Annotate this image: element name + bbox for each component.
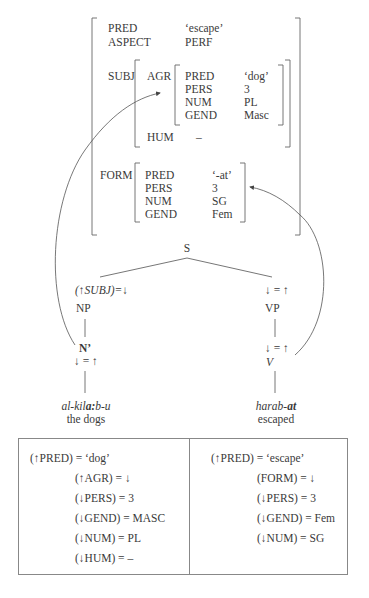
noun-word: al-kila:b-u (61, 400, 110, 413)
fs-form-gend-attr: GEND (145, 208, 177, 221)
fs-hum-attr: HUM (147, 131, 174, 144)
fs-agr-pers-value: 3 (244, 83, 250, 96)
vp-annotation: ↓ = ↑ (265, 284, 289, 297)
tree-node-vp: VP (265, 302, 280, 315)
fs-agr-pred-value: ‘dog’ (244, 70, 269, 83)
fs-agr-num-attr: NUM (185, 96, 212, 109)
noun-equation: (↓NUM) = PL (75, 532, 141, 545)
verb-equation: (↓GEND) = Fem (257, 512, 335, 525)
tree-root-s: S (184, 242, 190, 255)
fs-subj-attr: SUBJ (108, 70, 135, 83)
noun-equation: (↓PERS) = 3 (75, 492, 134, 505)
agr-left-bracket (175, 65, 180, 125)
form-left-bracket (135, 163, 140, 222)
verb-word-bold-suffix: at (287, 400, 296, 412)
subj-right-bracket (285, 60, 290, 147)
fs-agr-attr: AGR (147, 70, 171, 83)
verb-word: harab-at (256, 400, 296, 413)
fs-agr-pers-attr: PERS (185, 83, 213, 96)
fs-aspect-attr: ASPECT (108, 36, 151, 49)
noun-equation: (↓GEND) = MASC (75, 512, 165, 525)
nbar-annotation: ↓ = ↑ (74, 355, 98, 368)
fs-pred-attr: PRED (108, 22, 137, 35)
verb-head-equation: (↑PRED) = ‘escape’ (211, 452, 304, 465)
noun-equation: (↑AGR) = ↓ (75, 472, 131, 485)
verb-equation: (↓PERS) = 3 (257, 492, 316, 505)
fs-agr-gend-attr: GEND (185, 109, 217, 122)
tree-node-np: NP (76, 302, 91, 315)
verb-gloss: escaped (258, 413, 294, 426)
noun-head-equation: (↑PRED) = ‘dog’ (30, 452, 110, 465)
subj-left-bracket (135, 60, 140, 147)
fs-form-pers-value: 3 (212, 182, 218, 195)
fs-hum-value: – (196, 131, 202, 144)
fs-agr-pred-attr: PRED (185, 70, 214, 83)
outer-right-bracket (295, 18, 300, 235)
np-annotation: (↑SUBJ)=↓ (75, 284, 128, 297)
fs-form-num-attr: NUM (145, 195, 172, 208)
noun-word-bold-vowel: a: (86, 400, 96, 412)
tree-node-nbar: N’ (79, 342, 91, 355)
verb-equation: (FORM) = ↓ (257, 472, 315, 485)
fs-agr-gend-value: Masc (244, 109, 269, 122)
fs-form-pred-value: ‘-at’ (212, 169, 232, 182)
fs-form-num-value: SG (212, 195, 227, 208)
fs-form-gend-value: Fem (212, 208, 232, 221)
noun-word-suffix: b-u (95, 400, 110, 412)
tree-node-v: V (266, 356, 273, 369)
fs-form-attr: FORM (100, 169, 133, 182)
noun-equation: (↓HUM) = – (75, 552, 133, 565)
noun-gloss: the dogs (67, 413, 106, 426)
verb-equation: (↓NUM) = SG (257, 532, 324, 545)
fs-pred-value: ‘escape’ (185, 22, 223, 35)
agr-right-bracket (278, 65, 283, 125)
fs-agr-num-value: PL (244, 96, 257, 109)
branch-s-vp (187, 258, 272, 277)
v-annotation: ↓ = ↑ (265, 342, 289, 355)
lexical-entries-divider (189, 438, 190, 575)
verb-word-stem: harab- (256, 400, 287, 412)
form-right-bracket (240, 163, 245, 222)
outer-left-bracket (92, 18, 97, 235)
fs-form-pers-attr: PERS (145, 182, 173, 195)
form-correspondence-arrow (250, 187, 324, 355)
branch-s-np (100, 258, 187, 277)
fs-aspect-value: PERF (185, 36, 213, 49)
fs-form-pred-attr: PRED (145, 169, 174, 182)
noun-word-stem: al-kil (61, 400, 85, 412)
